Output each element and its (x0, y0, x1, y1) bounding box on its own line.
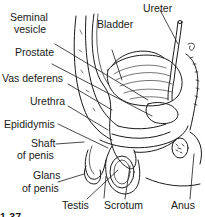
label-seminal-vesicle-line1: Seminal (10, 12, 48, 23)
label-epididymis: Epididymis (4, 119, 55, 130)
label-seminal-vesicle-line2: vesicle (14, 24, 46, 35)
label-shaft-line1: Shaft (31, 138, 56, 149)
label-scrotum: Scrotum (104, 200, 143, 211)
figure-number-fragment: 1-37 (0, 212, 21, 217)
label-shaft-line2: of penis (17, 150, 54, 161)
label-anus: Anus (171, 200, 195, 211)
male-reproductive-diagram: Seminal vesicle Bladder Ureter Prostate … (0, 0, 205, 217)
label-testis: Testis (62, 200, 89, 211)
label-prostate: Prostate (15, 47, 54, 58)
label-bladder: Bladder (97, 19, 133, 30)
label-vas-deferens: Vas deferens (2, 73, 63, 84)
label-glans-line2: of penis (22, 183, 59, 194)
label-urethra: Urethra (30, 96, 65, 107)
label-glans-line1: Glans (33, 170, 60, 181)
label-ureter: Ureter (143, 3, 172, 14)
